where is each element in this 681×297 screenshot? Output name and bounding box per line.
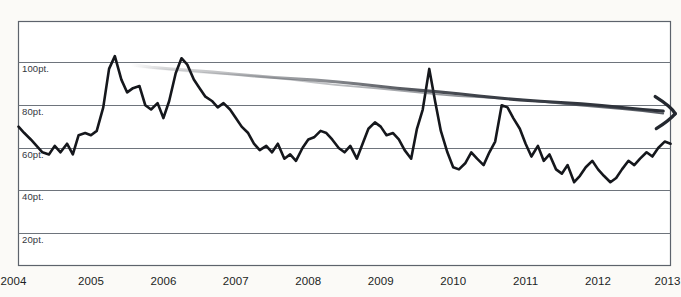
x-tick-label-2009: 2009 xyxy=(368,275,394,287)
x-tick-label-2013: 2013 xyxy=(655,275,681,287)
y-tick-label-20: 20pt. xyxy=(22,234,44,245)
line-chart: 100pt. 80pt. 60pt. 40pt. 20pt. 200420052… xyxy=(0,0,681,297)
y-tick-label-100: 100pt. xyxy=(22,63,49,74)
x-tick-label-2008: 2008 xyxy=(295,275,321,287)
x-tick-label-2004: 2004 xyxy=(1,275,27,287)
x-tick-label-2012: 2012 xyxy=(585,275,611,287)
y-tick-label-80: 80pt. xyxy=(22,106,44,117)
chart-container: 100pt. 80pt. 60pt. 40pt. 20pt. 200420052… xyxy=(0,0,681,297)
x-tick-label-2005: 2005 xyxy=(78,275,104,287)
x-tick-label-2011: 2011 xyxy=(513,275,538,287)
x-tick-label-2010: 2010 xyxy=(440,275,466,287)
y-tick-label-40: 40pt. xyxy=(22,191,44,202)
x-tick-label-2006: 2006 xyxy=(150,275,176,287)
x-tick-label-2007: 2007 xyxy=(223,275,249,287)
